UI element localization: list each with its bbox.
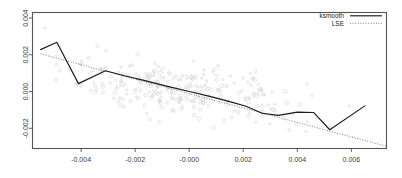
scatter-point	[194, 85, 196, 87]
scatter-point	[199, 108, 202, 111]
scatter-point	[184, 94, 187, 97]
scatter-point	[219, 95, 222, 98]
x-tick-label: -0.002	[125, 156, 145, 163]
scatter-point	[117, 71, 120, 74]
scatter-point	[95, 88, 98, 91]
scatter-point	[295, 122, 298, 125]
scatter-point	[261, 104, 264, 107]
x-axis-tick-labels: -0.004-0.002-0.0000.0020.0040.006	[71, 156, 360, 163]
scatter-point	[185, 97, 188, 100]
scatter-point	[274, 103, 276, 105]
scatter-point	[288, 129, 291, 132]
scatter-point	[203, 86, 207, 90]
scatter-point	[91, 69, 94, 72]
scatter-point	[119, 97, 122, 100]
scatter-point	[122, 105, 124, 107]
scatter-point	[122, 98, 125, 101]
scatter-point	[54, 79, 57, 82]
scatter-point	[248, 112, 250, 114]
scatter-point	[255, 121, 257, 123]
scatter-point	[158, 121, 161, 124]
scatter-point	[199, 90, 202, 93]
scatter-point	[58, 69, 61, 72]
scatter-point	[220, 84, 224, 88]
scatter-point	[186, 77, 188, 79]
legend-label-lse: LSE	[332, 20, 345, 27]
scatter-point	[223, 119, 226, 122]
y-tick-label: 0.004	[22, 9, 29, 27]
scatter-point	[189, 75, 192, 78]
scatter-point	[55, 64, 58, 67]
scatter-point	[156, 65, 159, 68]
scatter-point	[233, 110, 235, 112]
scatter-point	[215, 78, 218, 81]
scatter-point	[148, 118, 151, 121]
scatter-point	[154, 62, 156, 64]
scatter-point	[133, 90, 136, 93]
scatter-point	[192, 60, 194, 62]
scatter-point	[94, 91, 97, 94]
scatter-plot-svg: -0.004-0.002-0.0000.0020.0040.006 0.0040…	[0, 0, 402, 178]
scatter-point	[241, 90, 243, 92]
y-tick-label: -0.002	[22, 118, 29, 138]
scatter-point	[117, 85, 120, 88]
x-tick-label: -0.000	[179, 156, 199, 163]
scatter-point	[206, 80, 208, 82]
scatter-point	[163, 77, 165, 79]
scatter-point-layer	[43, 27, 350, 133]
scatter-point	[125, 93, 127, 95]
scatter-point	[129, 100, 132, 103]
scatter-point	[254, 70, 257, 73]
scatter-point	[148, 91, 151, 94]
scatter-point	[175, 98, 177, 100]
scatter-point	[257, 104, 260, 107]
scatter-point	[197, 86, 199, 88]
scatter-point	[152, 93, 155, 96]
scatter-point	[144, 94, 147, 97]
scatter-point	[120, 66, 122, 68]
scatter-point	[94, 85, 97, 88]
chart-figure: -0.004-0.002-0.0000.0020.0040.006 0.0040…	[0, 0, 402, 178]
scatter-point	[87, 56, 90, 59]
scatter-point	[285, 101, 288, 104]
scatter-point	[139, 89, 142, 92]
scatter-point	[160, 96, 163, 99]
scatter-point	[160, 67, 163, 70]
scatter-point	[126, 89, 129, 92]
scatter-point	[203, 73, 205, 75]
scatter-point	[200, 86, 202, 88]
scatter-point	[201, 98, 204, 101]
scatter-point	[212, 71, 214, 73]
scatter-point	[305, 120, 308, 123]
scatter-point	[267, 104, 270, 107]
scatter-point	[160, 76, 163, 79]
scatter-point	[257, 83, 259, 85]
scatter-point	[113, 91, 116, 94]
scatter-point	[160, 91, 163, 94]
scatter-point	[117, 100, 120, 103]
scatter-point	[80, 85, 83, 88]
scatter-point	[143, 104, 146, 107]
y-tick-label: 0.000	[22, 83, 29, 101]
scatter-point	[189, 94, 191, 96]
scatter-point	[185, 85, 188, 88]
scatter-point	[102, 91, 105, 94]
scatter-point	[348, 105, 350, 107]
y-tick-label: 0.002	[22, 46, 29, 64]
scatter-point	[121, 76, 123, 78]
scatter-point	[110, 75, 113, 78]
scatter-point	[120, 83, 123, 86]
scatter-point	[166, 80, 169, 83]
scatter-point	[173, 91, 176, 94]
scatter-point	[175, 75, 177, 77]
scatter-point	[257, 92, 260, 95]
scatter-point	[114, 79, 116, 81]
scatter-point	[242, 77, 245, 80]
scatter-point	[215, 74, 218, 77]
scatter-point	[271, 91, 273, 93]
scatter-point	[283, 90, 287, 94]
legend-label-ksmooth: ksmooth	[319, 12, 344, 19]
scatter-point	[96, 44, 99, 47]
scatter-point	[199, 101, 202, 104]
scatter-point	[230, 116, 233, 119]
